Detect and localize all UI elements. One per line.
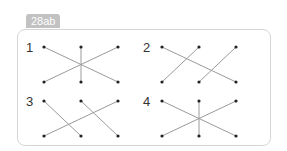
dot-line-diagram <box>0 0 287 151</box>
panel-2 <box>160 45 237 83</box>
dot <box>42 80 45 83</box>
dot <box>160 134 163 137</box>
dot <box>79 134 82 137</box>
dot <box>79 80 82 83</box>
dot <box>42 134 45 137</box>
dot <box>160 80 163 83</box>
dot <box>79 99 82 102</box>
connector-line <box>162 47 236 82</box>
dot <box>42 45 45 48</box>
connector-line <box>44 101 118 136</box>
dot <box>234 80 237 83</box>
dot <box>234 45 237 48</box>
connector-line <box>81 101 118 136</box>
dot <box>197 80 200 83</box>
dot <box>234 134 237 137</box>
connector-line <box>44 101 81 136</box>
dot <box>234 99 237 102</box>
dot <box>160 45 163 48</box>
panel-1 <box>42 45 119 83</box>
dot <box>116 99 119 102</box>
dot <box>116 45 119 48</box>
panel-3 <box>42 99 119 137</box>
connector-line <box>162 47 199 82</box>
dot <box>197 99 200 102</box>
dot <box>197 45 200 48</box>
dot <box>116 80 119 83</box>
panel-4 <box>160 99 237 137</box>
dot <box>197 134 200 137</box>
dot <box>116 134 119 137</box>
dot <box>160 99 163 102</box>
connector-line <box>199 47 236 82</box>
dot <box>79 45 82 48</box>
dot <box>42 99 45 102</box>
